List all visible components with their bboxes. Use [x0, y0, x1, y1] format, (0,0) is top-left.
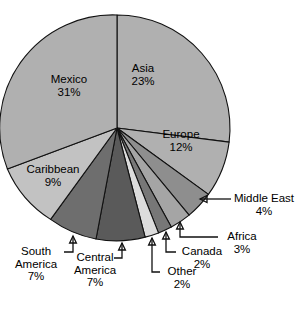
- slice-label-south-america-line1: South: [21, 245, 51, 257]
- slice-label-mexico-value: 31%: [34, 86, 104, 99]
- slice-label-asia: Asia 23%: [112, 62, 174, 87]
- slice-label-middle-east-value: 4%: [231, 205, 296, 218]
- slice-label-other-value: 2%: [160, 278, 204, 291]
- callout-line-africa: [177, 222, 218, 237]
- slice-label-africa-name: Africa: [227, 230, 256, 242]
- callout-line-canada: [163, 232, 176, 252]
- slice-label-canada-name: Canada: [182, 245, 222, 257]
- slice-label-mexico: Mexico 31%: [34, 73, 104, 98]
- slice-label-asia-value: 23%: [112, 75, 174, 88]
- callout-line-other: [149, 238, 160, 272]
- pie-chart: Mexico 31% Asia 23% Europe 12% Caribbean…: [0, 0, 296, 309]
- slice-label-other-name: Other: [168, 265, 197, 277]
- slice-label-middle-east-name: Middle East: [234, 192, 294, 204]
- slice-label-south-america-line2: America: [7, 258, 65, 271]
- slice-label-asia-name: Asia: [132, 62, 154, 74]
- slice-label-central-america-line1: Central: [76, 251, 113, 263]
- slice-label-europe: Europe 12%: [150, 128, 212, 153]
- slice-label-europe-value: 12%: [150, 141, 212, 154]
- slice-label-south-america: South America 7%: [7, 245, 65, 283]
- slice-label-caribbean-name: Caribbean: [26, 163, 79, 175]
- slice-label-central-america-value: 7%: [64, 276, 126, 289]
- slice-label-middle-east: Middle East 4%: [231, 192, 296, 217]
- slice-label-europe-name: Europe: [162, 128, 199, 140]
- slice-label-central-america-line2: America: [64, 264, 126, 277]
- slice-label-other: Other 2%: [160, 265, 204, 290]
- callout-line-south-america: [64, 236, 76, 252]
- callout-line-middle-east: [200, 196, 231, 203]
- slice-label-south-america-value: 7%: [7, 270, 65, 283]
- slice-label-caribbean: Caribbean 9%: [18, 163, 88, 188]
- slice-label-central-america: Central America 7%: [64, 251, 126, 289]
- slice-label-caribbean-value: 9%: [18, 176, 88, 189]
- slice-label-mexico-name: Mexico: [51, 73, 87, 85]
